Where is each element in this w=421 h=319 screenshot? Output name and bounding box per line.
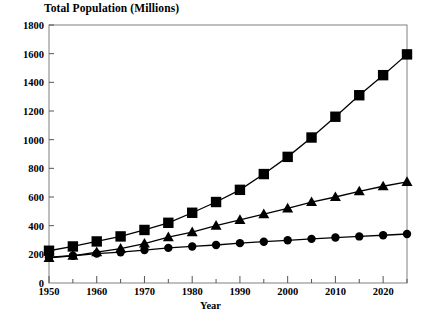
data-point-square: [259, 169, 269, 179]
data-point-circle: [188, 242, 196, 250]
data-point-square: [354, 90, 364, 100]
data-point-square: [92, 236, 102, 246]
data-point-square: [115, 231, 125, 241]
data-point-circle: [403, 230, 411, 238]
series-line-triangle: [49, 182, 407, 258]
data-point-circle: [164, 244, 172, 252]
data-point-square: [282, 152, 292, 162]
data-point-circle: [307, 235, 315, 243]
series-line-square: [49, 54, 407, 250]
data-point-circle: [379, 231, 387, 239]
data-point-square: [378, 70, 388, 80]
data-point-square: [139, 225, 149, 235]
series-line-circle: [49, 234, 407, 257]
data-point-circle: [212, 241, 220, 249]
data-point-square: [163, 218, 173, 228]
data-point-square: [44, 246, 54, 256]
data-point-circle: [331, 233, 339, 241]
population-line-chart: Total Population (Millions) 020040060080…: [0, 0, 421, 319]
data-point-square: [68, 241, 78, 251]
data-point-square: [330, 112, 340, 122]
data-point-circle: [236, 239, 244, 247]
data-point-square: [211, 197, 221, 207]
plot-area: [0, 0, 421, 319]
data-point-square: [235, 185, 245, 195]
data-point-circle: [260, 238, 268, 246]
data-point-square: [402, 49, 412, 59]
data-point-square: [306, 132, 316, 142]
data-point-circle: [283, 236, 291, 244]
data-point-circle: [355, 232, 363, 240]
data-point-square: [187, 208, 197, 218]
data-point-triangle: [402, 176, 413, 186]
